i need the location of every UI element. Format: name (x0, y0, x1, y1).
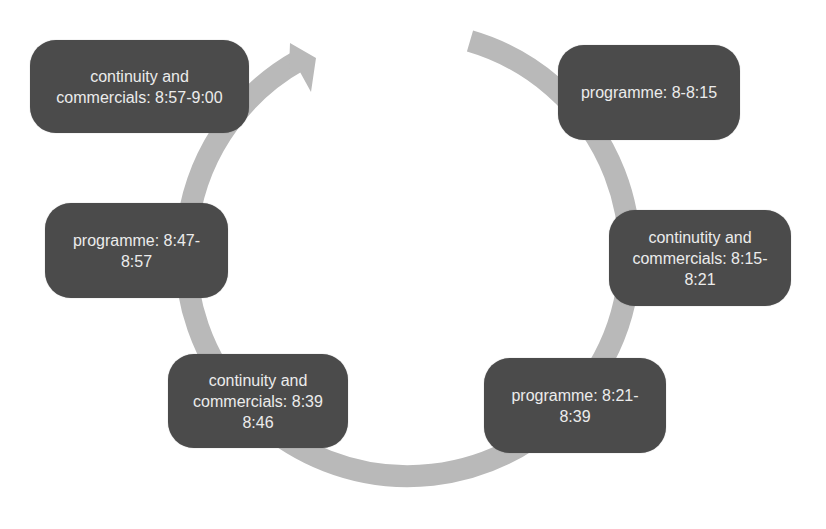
node-label: programme: 8:47- 8:57 (73, 230, 200, 272)
node-label: programme: 8:21- 8:39 (511, 385, 638, 427)
node-programme-8-815: programme: 8-8:15 (558, 45, 740, 140)
node-label: programme: 8-8:15 (581, 82, 717, 103)
node-programme-847-857: programme: 8:47- 8:57 (45, 203, 228, 298)
node-continuity-815-821: continutity and commercials: 8:15- 8:21 (609, 210, 791, 306)
node-label: continuity and commercials: 8:57-9:00 (56, 66, 222, 108)
node-programme-821-839: programme: 8:21- 8:39 (484, 358, 666, 453)
node-label: continuity and commercials: 8:39 8:46 (193, 370, 323, 433)
node-label: continutity and commercials: 8:15- 8:21 (632, 227, 767, 290)
node-continuity-857-900: continuity and commercials: 8:57-9:00 (30, 40, 249, 133)
node-continuity-839-846: continuity and commercials: 8:39 8:46 (168, 354, 348, 448)
arrowhead-icon (289, 43, 316, 92)
